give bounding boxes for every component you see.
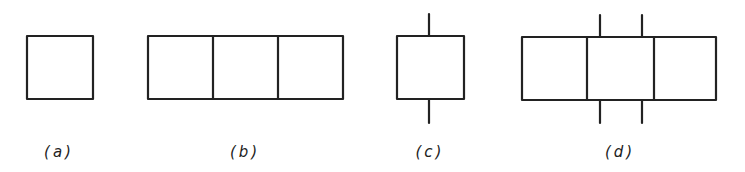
panel-b-shape: [148, 36, 343, 99]
panel-c-shape: [397, 14, 464, 123]
panel-b-outer-rect: [148, 36, 343, 99]
panel-a-shape: [27, 36, 93, 99]
panel-d-label: (d): [590, 143, 650, 161]
panel-a-square: [27, 36, 93, 99]
panel-b-label: (b): [215, 143, 275, 161]
panel-d-shape: [522, 15, 716, 123]
panel-c-square: [397, 36, 464, 99]
panel-a-label: (a): [29, 143, 89, 161]
panel-d-outer-rect: [522, 37, 716, 100]
panel-c-label: (c): [400, 143, 460, 161]
